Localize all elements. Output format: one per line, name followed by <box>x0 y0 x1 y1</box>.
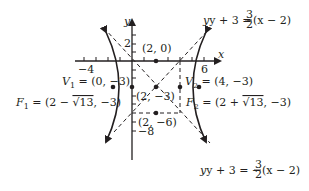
label-asymptote-lower-tail: (x − 2) <box>262 164 300 177</box>
label-asymptote-upper: yy + 3 = <box>202 14 251 27</box>
label-v2: V2 = (4, −3) <box>185 75 253 90</box>
vertex-v2 <box>178 85 183 90</box>
label-point-2-0: (2, 0) <box>142 42 172 55</box>
label-f2: F2 = (2 + √13, −3) <box>185 96 291 111</box>
point-2-0 <box>154 59 159 64</box>
y-tick-label-2: 2 <box>124 37 131 50</box>
svg-text:2: 2 <box>246 18 253 31</box>
label-v1: V1 = (0, −3) <box>62 75 130 90</box>
svg-text:2: 2 <box>255 168 262 181</box>
vertex-v1 <box>130 85 135 90</box>
label-asymptote-lower: yy + 3 = − <box>199 164 261 177</box>
point-center <box>154 85 159 90</box>
hyperbola-diagram: x y −4 6 2 −8 (2, 0) (2, −3) (2, −6) V1 … <box>0 0 309 191</box>
upper-fraction: 3 2 <box>245 8 253 31</box>
x-axis-label: x <box>218 48 225 61</box>
lower-fraction: 3 2 <box>254 158 262 181</box>
label-asymptote-upper-tail: (x − 2) <box>253 14 291 27</box>
label-f1: F1 = (2 − √13, −3) <box>15 96 121 111</box>
point-2-neg6 <box>154 111 159 116</box>
y-axis-label: y <box>123 15 131 28</box>
label-point-2-neg6: (2, −6) <box>138 116 177 129</box>
label-center: (2, −3) <box>136 90 175 103</box>
